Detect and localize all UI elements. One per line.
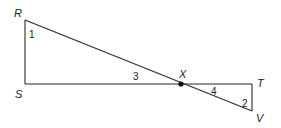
segment-rv	[25, 20, 252, 111]
vertex-label-x: X	[178, 68, 187, 80]
angle-label-3: 3	[133, 71, 139, 82]
angle-label-1: 1	[29, 29, 35, 40]
vertex-label-s: S	[15, 88, 23, 100]
point-x-dot	[178, 81, 183, 86]
geometry-diagram: R S X T V 1 3 4 2	[0, 0, 281, 128]
angle-label-2: 2	[242, 98, 248, 109]
vertex-label-r: R	[14, 7, 22, 19]
vertex-label-t: T	[257, 77, 265, 89]
angle-label-4: 4	[211, 86, 217, 97]
vertex-label-v: V	[256, 112, 265, 124]
